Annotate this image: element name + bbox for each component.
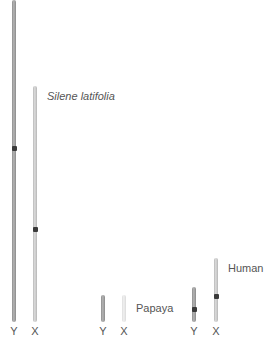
silene-x-centromere — [33, 227, 38, 232]
silene-x-label: X — [29, 325, 41, 337]
papaya-y-chromosome — [101, 295, 105, 322]
silene-y-centromere — [12, 146, 17, 151]
silene-species-label: Silene latifolia — [47, 90, 115, 102]
papaya-x-chromosome — [122, 295, 126, 322]
silene-y-label: Y — [8, 325, 20, 337]
silene-x-chromosome — [33, 86, 37, 322]
human-y-chromosome — [192, 287, 196, 322]
human-x-centromere — [214, 294, 219, 299]
silene-y-chromosome — [12, 0, 16, 322]
human-x-label: X — [210, 325, 222, 337]
human-x-chromosome — [214, 258, 218, 322]
papaya-y-label: Y — [97, 325, 109, 337]
human-species-label: Human — [228, 262, 263, 274]
human-y-centromere — [192, 307, 197, 312]
human-y-label: Y — [188, 325, 200, 337]
papaya-species-label: Papaya — [136, 302, 173, 314]
papaya-x-label: X — [118, 325, 130, 337]
